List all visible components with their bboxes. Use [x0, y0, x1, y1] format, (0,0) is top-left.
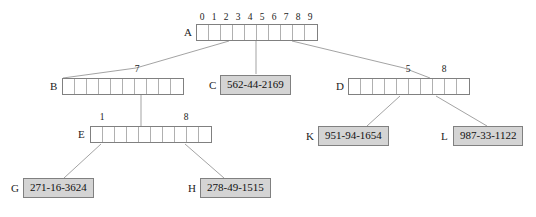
node-e-cell-8[interactable]: [187, 127, 199, 142]
node-label-l: L: [441, 131, 448, 142]
node-a-index-6: 6: [268, 13, 280, 23]
node-b-cell-3[interactable]: [99, 79, 111, 94]
edge-a-d: [292, 41, 404, 68]
node-d-cell-7[interactable]: [433, 79, 445, 94]
node-e-cell-4[interactable]: [139, 127, 151, 142]
node-e-cell-2[interactable]: [115, 127, 127, 142]
edge-a-b-tail: [63, 68, 136, 78]
node-e-cell-5[interactable]: [151, 127, 163, 142]
node-h-value[interactable]: 278-49-1515: [200, 178, 271, 198]
node-b[interactable]: [62, 78, 184, 95]
node-e-index-1: 1: [96, 113, 108, 123]
node-a-index-8: 8: [292, 13, 304, 23]
node-label-c: C: [209, 80, 216, 91]
node-d-cell-1[interactable]: [361, 79, 373, 94]
node-a-index-9: 9: [304, 13, 316, 23]
node-a-index-7: 7: [280, 13, 292, 23]
node-d-index-5: 5: [402, 65, 414, 75]
node-a-cell-5[interactable]: [257, 25, 269, 40]
edge-e-g: [64, 144, 101, 178]
node-a-index-1: 1: [208, 13, 220, 23]
node-label-b: B: [50, 81, 57, 92]
node-b-cell-6[interactable]: [135, 79, 147, 94]
node-a[interactable]: [196, 24, 318, 41]
node-label-a: A: [184, 27, 192, 38]
node-e-index-8: 8: [180, 113, 192, 123]
node-d-cell-0[interactable]: [349, 79, 361, 94]
node-a-index-0: 0: [196, 13, 208, 23]
node-e-cell-7[interactable]: [175, 127, 187, 142]
node-e-cell-9[interactable]: [199, 127, 211, 142]
node-d-cell-6[interactable]: [421, 79, 433, 94]
node-b-cell-2[interactable]: [87, 79, 99, 94]
node-a-index-3: 3: [232, 13, 244, 23]
node-k-value[interactable]: 951-94-1654: [318, 126, 389, 146]
node-b-cell-1[interactable]: [75, 79, 87, 94]
node-e-cell-0[interactable]: [91, 127, 103, 142]
node-a-cell-7[interactable]: [281, 25, 293, 40]
node-label-d: D: [336, 81, 344, 92]
node-b-cell-7[interactable]: [147, 79, 159, 94]
edge-d-k: [367, 96, 400, 126]
node-b-index-7: 7: [131, 65, 143, 75]
node-d-index-8: 8: [438, 65, 450, 75]
node-a-cell-0[interactable]: [197, 25, 209, 40]
node-a-cell-4[interactable]: [245, 25, 257, 40]
node-a-index-4: 4: [244, 13, 256, 23]
edge-d-l: [436, 96, 487, 126]
node-d-cell-8[interactable]: [445, 79, 457, 94]
node-b-cell-0[interactable]: [63, 79, 75, 94]
node-d-cell-2[interactable]: [373, 79, 385, 94]
node-a-cell-3[interactable]: [233, 25, 245, 40]
node-a-cell-6[interactable]: [269, 25, 281, 40]
node-label-k: K: [306, 131, 314, 142]
node-d-cell-3[interactable]: [385, 79, 397, 94]
node-e-cell-1[interactable]: [103, 127, 115, 142]
node-b-cell-4[interactable]: [111, 79, 123, 94]
node-d-cell-9[interactable]: [457, 79, 469, 94]
node-g-value[interactable]: 271-16-3624: [23, 178, 94, 198]
node-label-e: E: [78, 129, 85, 140]
node-c-value[interactable]: 562-44-2169: [220, 75, 291, 95]
node-b-cell-5[interactable]: [123, 79, 135, 94]
edge-e-h: [185, 144, 224, 178]
node-d[interactable]: [348, 78, 470, 95]
node-e-cell-6[interactable]: [163, 127, 175, 142]
node-a-index-2: 2: [220, 13, 232, 23]
node-d-cell-5[interactable]: [409, 79, 421, 94]
edge-a-b: [136, 41, 229, 68]
node-a-index-5: 5: [256, 13, 268, 23]
node-a-cell-2[interactable]: [221, 25, 233, 40]
node-e[interactable]: [90, 126, 212, 143]
node-label-h: H: [188, 183, 196, 194]
node-d-cell-4[interactable]: [397, 79, 409, 94]
node-l-value[interactable]: 987-33-1122: [453, 126, 523, 146]
node-a-cell-9[interactable]: [305, 25, 317, 40]
node-a-cell-8[interactable]: [293, 25, 305, 40]
node-label-g: G: [11, 183, 19, 194]
node-a-cell-1[interactable]: [209, 25, 221, 40]
node-b-cell-8[interactable]: [159, 79, 171, 94]
trie-diagram: A 0 1 2 3 4 5 6 7 8 9 B 7 C 562-44-2169 …: [0, 0, 536, 217]
node-e-cell-3[interactable]: [127, 127, 139, 142]
node-b-cell-9[interactable]: [171, 79, 183, 94]
